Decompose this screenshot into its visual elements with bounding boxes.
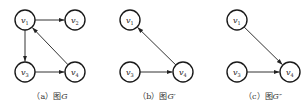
caption-graph-b: （b）图G′ — [138, 92, 176, 101]
node-v1: v1 — [120, 10, 140, 30]
graphs-layer: v1v2v3v4（a）图Gv1v3v4（b）图G′v1v3v4（c）图G″ — [15, 10, 300, 101]
node-v1: v1 — [227, 10, 247, 30]
edge-v4-to-v1 — [137, 27, 175, 65]
directed-graphs-diagram: v1v2v3v4（a）图Gv1v3v4（b）图G′v1v3v4（c）图G″ — [0, 0, 307, 111]
node-v3: v3 — [227, 62, 247, 82]
graph-b: v1v3v4（b）图G′ — [120, 10, 193, 101]
graph-c: v1v3v4（c）图G″ — [227, 10, 300, 101]
caption-graph-c: （c）图G″ — [244, 92, 282, 101]
node-v3: v3 — [120, 62, 140, 82]
node-v2: v2 — [65, 10, 85, 30]
edge-v4-to-v1 — [32, 28, 68, 65]
graph-a: v1v2v3v4（a）图G — [15, 10, 85, 101]
node-v3: v3 — [15, 62, 35, 82]
node-v4: v4 — [173, 62, 193, 82]
caption-graph-a: （a）图G — [32, 92, 68, 101]
node-v4: v4 — [65, 62, 85, 82]
node-v4: v4 — [280, 62, 300, 82]
edge-v1-to-v4 — [244, 27, 282, 65]
node-v1: v1 — [15, 10, 35, 30]
